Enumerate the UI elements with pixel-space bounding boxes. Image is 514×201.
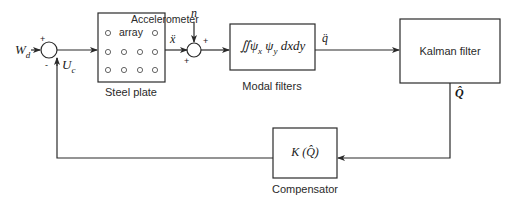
accelerometer-dot (105, 49, 110, 54)
x-ddot-label: ẍ (170, 32, 175, 47)
q-ddot-label: q̈ (322, 31, 328, 46)
accelerometer-dot (152, 30, 157, 35)
sum2-top-plus: + (203, 36, 208, 46)
kalman-filter-label: Kalman filter (419, 45, 480, 57)
sum1-plus-sign: + (40, 34, 45, 44)
sum1-minus-sign: - (45, 60, 48, 70)
summing-junction-2 (187, 43, 201, 57)
control-block-diagram (0, 0, 514, 201)
accelerometer-dot (105, 67, 110, 72)
accelerometer-dot (152, 67, 157, 72)
uc-label: Uc (62, 57, 75, 75)
accelerometer-dot (121, 67, 126, 72)
accelerometer-title: Accelerometer (131, 13, 199, 25)
accelerometer-dot (105, 30, 110, 35)
noise-label: n (191, 6, 197, 21)
accelerometer-dot (137, 49, 142, 54)
accelerometer-dot (137, 67, 142, 72)
accelerometer-array-label: array (119, 26, 143, 38)
wd-label: Wd (15, 42, 30, 60)
accelerometer-dot (152, 49, 157, 54)
modal-filters-caption: Modal filters (242, 80, 301, 92)
q-hat-feedback-path (338, 83, 450, 158)
summing-junction-1 (41, 42, 57, 58)
compensator-expression: K (Q̂) (291, 145, 319, 160)
accelerometer-dot (121, 49, 126, 54)
modal-filter-expression: ∬ψx ψy dxdy (240, 38, 305, 56)
steel-plate-caption: Steel plate (105, 86, 157, 98)
compensator-caption: Compensator (272, 183, 338, 195)
sum2-bottom-plus: + (184, 56, 189, 66)
control-feedback-path (57, 148, 273, 158)
q-hat-label: Q̂ (455, 86, 464, 101)
